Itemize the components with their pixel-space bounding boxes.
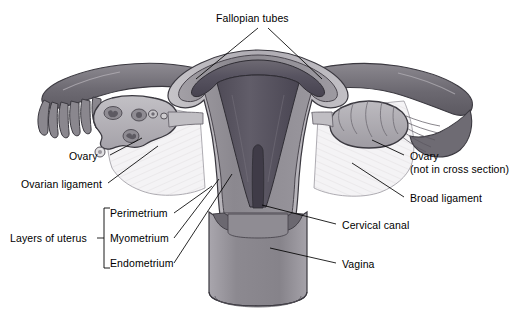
- label-ovary-right: Ovary (not in cross section): [410, 150, 514, 175]
- label-ovary-right-line1: Ovary: [410, 150, 439, 162]
- label-broad-ligament: Broad ligament: [410, 192, 482, 205]
- label-layers-of-uterus: Layers of uterus: [10, 232, 87, 245]
- vagina: [209, 212, 307, 307]
- label-endometrium: Endometrium: [110, 257, 174, 270]
- label-ovary-left: Ovary: [69, 150, 98, 163]
- figure-canvas: Fallopian tubes Ovary Ovarian ligament L…: [0, 0, 517, 321]
- label-myometrium: Myometrium: [110, 232, 169, 245]
- label-ovary-right-line2: (not in cross section): [410, 163, 509, 175]
- label-ovarian-ligament: Ovarian ligament: [21, 178, 102, 191]
- ovary-right-external: [330, 101, 408, 148]
- label-cervical-canal: Cervical canal: [342, 219, 409, 232]
- label-vagina: Vagina: [342, 258, 375, 271]
- label-perimetrium: Perimetrium: [110, 207, 168, 220]
- label-fallopian-tubes: Fallopian tubes: [216, 12, 289, 25]
